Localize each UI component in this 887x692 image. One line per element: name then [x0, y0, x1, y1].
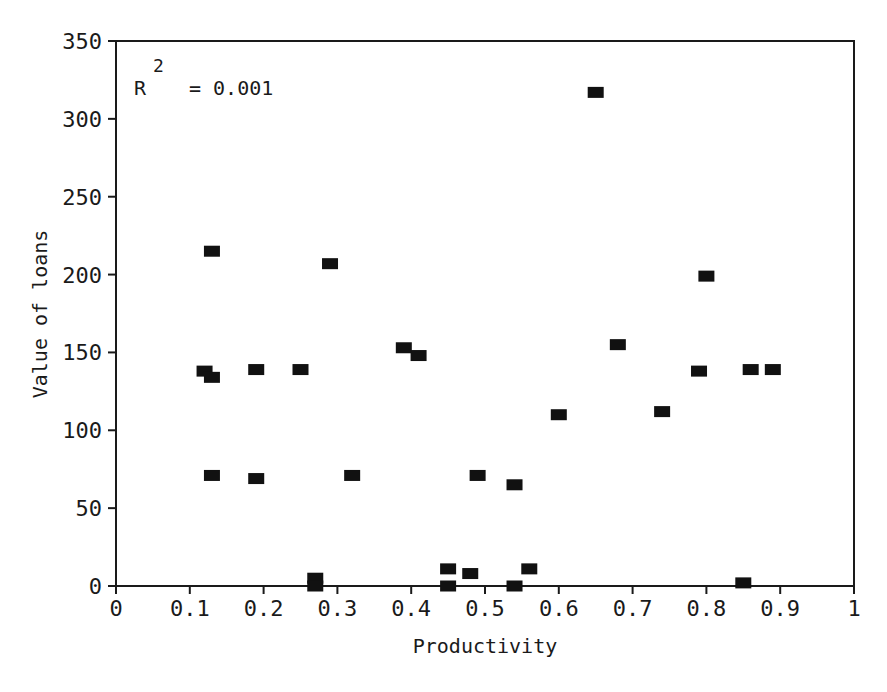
data-point-marker [248, 473, 264, 484]
data-point-marker [462, 568, 478, 579]
x-tick-label: 1 [847, 596, 860, 621]
x-axis: 00.10.20.30.40.50.60.70.80.91 [109, 586, 860, 621]
data-point-marker [322, 258, 338, 269]
data-point-marker [551, 409, 567, 420]
data-point-marker [293, 364, 309, 375]
data-point-marker [507, 479, 523, 490]
y-tick-label: 0 [89, 574, 102, 599]
y-tick-label: 300 [62, 107, 102, 132]
data-point-marker [735, 577, 751, 588]
data-point-marker [204, 246, 220, 257]
data-point-marker [248, 364, 264, 375]
data-point-marker [204, 470, 220, 481]
data-point-marker [654, 406, 670, 417]
y-tick-label: 50 [76, 496, 103, 521]
data-point-marker [440, 581, 456, 592]
x-tick-label: 0 [109, 596, 122, 621]
data-point-marker [765, 364, 781, 375]
y-tick-label: 100 [62, 418, 102, 443]
r-squared-value: = 0.001 [189, 76, 273, 100]
x-tick-label: 0.6 [539, 596, 579, 621]
y-axis: 050100150200250300350 [62, 29, 116, 599]
x-tick-label: 0.1 [170, 596, 210, 621]
data-point-marker [411, 350, 427, 361]
x-tick-label: 0.3 [318, 596, 358, 621]
y-axis-title: Value of loans [28, 230, 52, 399]
data-point-marker [440, 563, 456, 574]
data-point-marker [507, 581, 523, 592]
y-tick-label: 150 [62, 340, 102, 365]
x-axis-title: Productivity [413, 634, 558, 658]
y-tick-label: 200 [62, 263, 102, 288]
r-squared-r: R [134, 76, 147, 100]
data-point-marker [204, 372, 220, 383]
r-squared-annotation: R 2 = 0.001 [134, 55, 273, 100]
data-points [197, 87, 781, 592]
x-tick-label: 0.9 [760, 596, 800, 621]
data-point-marker [588, 87, 604, 98]
data-point-marker [691, 366, 707, 377]
data-point-marker [344, 470, 360, 481]
data-point-marker [470, 470, 486, 481]
data-point-marker [396, 342, 412, 353]
x-tick-label: 0.4 [391, 596, 431, 621]
data-point-marker [521, 563, 537, 574]
y-tick-label: 350 [62, 29, 102, 54]
x-tick-label: 0.7 [613, 596, 653, 621]
data-point-marker [307, 581, 323, 592]
plot-frame [116, 41, 854, 586]
x-tick-label: 0.8 [687, 596, 727, 621]
scatter-chart: 00.10.20.30.40.50.60.70.80.91 0501001502… [0, 0, 887, 692]
data-point-marker [610, 339, 626, 350]
r-squared-superscript: 2 [153, 55, 164, 76]
x-tick-label: 0.5 [465, 596, 505, 621]
y-tick-label: 250 [62, 185, 102, 210]
data-point-marker [743, 364, 759, 375]
data-point-marker [698, 271, 714, 282]
x-tick-label: 0.2 [244, 596, 284, 621]
